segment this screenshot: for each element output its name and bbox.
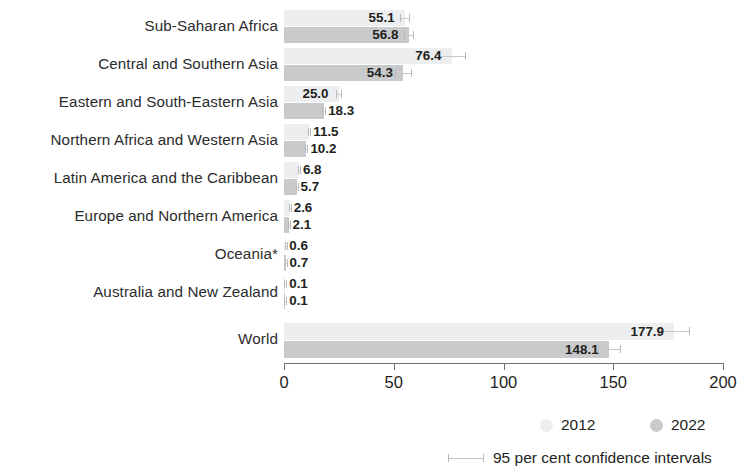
- axis-tick: [394, 363, 395, 370]
- value-label-2022: 54.3: [367, 65, 393, 81]
- value-label-2022: 148.1: [565, 341, 599, 358]
- error-bar-2022: [395, 65, 412, 81]
- category-label: Eastern and South-Eastern Asia: [10, 92, 278, 112]
- error-bar-2022: [284, 293, 287, 309]
- axis-tick-label: 100: [490, 373, 518, 392]
- row-plot-area: 2.62.1: [284, 198, 740, 236]
- error-bar-2012: [284, 276, 287, 292]
- chart-row: Latin America and the Caribbean6.85.7: [0, 160, 740, 198]
- axis-tick-label: 200: [709, 373, 737, 392]
- row-plot-area: 25.018.3: [284, 84, 740, 122]
- value-label-2022: 5.7: [301, 179, 320, 195]
- error-bar-2022: [288, 217, 291, 233]
- value-label-2012: 11.5: [313, 124, 338, 140]
- bar-2012: [284, 124, 309, 140]
- error-bar-2012: [336, 86, 341, 102]
- value-label-2012: 55.1: [369, 10, 395, 26]
- chart-row: World177.9148.1: [0, 318, 740, 362]
- category-label: Oceania*: [10, 244, 278, 264]
- error-bar-2022: [404, 27, 414, 43]
- row-plot-area: 177.9148.1: [284, 318, 740, 362]
- chart-row: Oceania*0.60.7: [0, 236, 740, 274]
- error-bar-2022: [296, 179, 299, 195]
- category-label: Northern Africa and Western Asia: [10, 130, 278, 150]
- bar-chart: Sub-Saharan Africa55.156.8Central and So…: [0, 0, 740, 476]
- legend-item-2022[interactable]: 2022: [650, 416, 705, 434]
- value-label-2022: 10.2: [310, 141, 336, 157]
- chart-row: Europe and Northern America2.62.1: [0, 198, 740, 236]
- error-bar-2012: [438, 48, 467, 64]
- row-plot-area: 6.85.7: [284, 160, 740, 198]
- category-label: World: [10, 329, 278, 349]
- error-bar-2012: [298, 162, 301, 178]
- bar-2012: [284, 162, 299, 178]
- chart-row: Northern Africa and Western Asia11.510.2: [0, 122, 740, 160]
- value-label-2012: 177.9: [630, 323, 664, 340]
- legend-swatch-icon: [540, 419, 553, 432]
- legend-label: 2022: [671, 416, 705, 434]
- axis-tick-label: 0: [279, 373, 288, 392]
- legend-label: 2012: [561, 416, 595, 434]
- value-label-2012: 0.1: [289, 276, 308, 292]
- bar-2022: [284, 179, 297, 195]
- error-bar-2022: [322, 103, 326, 119]
- row-plot-area: 11.510.2: [284, 122, 740, 160]
- category-label: Australia and New Zealand: [10, 282, 278, 302]
- error-bar-2012: [400, 10, 409, 26]
- axis-tick: [613, 363, 614, 370]
- category-label: Latin America and the Caribbean: [10, 168, 278, 188]
- value-label-2012: 25.0: [302, 86, 328, 102]
- row-plot-area: 0.10.1: [284, 274, 740, 312]
- row-plot-area: 76.454.3: [284, 46, 740, 84]
- error-bar-2012: [289, 200, 292, 216]
- error-bar-2022: [305, 141, 308, 157]
- chart-row: Eastern and South-Eastern Asia25.018.3: [0, 84, 740, 122]
- axis-tick: [504, 363, 505, 370]
- chart-row: Central and Southern Asia76.454.3: [0, 46, 740, 84]
- axis-tick: [284, 363, 285, 370]
- axis-tick-label: 50: [385, 373, 403, 392]
- x-axis: 050100150200: [284, 363, 723, 364]
- row-plot-area: 55.156.8: [284, 8, 740, 46]
- value-label-2022: 56.8: [372, 27, 398, 43]
- bar-2022: [284, 103, 324, 119]
- value-label-2022: 2.1: [293, 217, 312, 233]
- value-label-2012: 0.6: [289, 238, 308, 254]
- axis-tick-label: 150: [599, 373, 627, 392]
- chart-row: Australia and New Zealand0.10.1: [0, 274, 740, 312]
- category-label: Sub-Saharan Africa: [10, 16, 278, 36]
- legend-confidence-interval: 95 per cent confidence intervals: [448, 449, 712, 467]
- legend-series: 20122022: [0, 416, 740, 438]
- chart-row: Sub-Saharan Africa55.156.8: [0, 8, 740, 46]
- legend-item-2012[interactable]: 2012: [540, 416, 595, 434]
- legend-swatch-icon: [650, 419, 663, 432]
- axis-tick: [723, 363, 724, 370]
- error-bar-2012: [285, 238, 288, 254]
- category-label: Central and Southern Asia: [10, 54, 278, 74]
- value-label-2022: 18.3: [328, 103, 354, 119]
- row-plot-area: 0.60.7: [284, 236, 740, 274]
- error-bar-2022: [598, 341, 621, 358]
- error-bar-2022: [285, 255, 288, 271]
- value-label-2012: 6.8: [303, 162, 322, 178]
- value-label-2012: 76.4: [415, 48, 441, 64]
- category-label: Europe and Northern America: [10, 206, 278, 226]
- value-label-2012: 2.6: [294, 200, 313, 216]
- bar-2022: [284, 141, 306, 157]
- value-label-2022: 0.7: [290, 255, 309, 271]
- confidence-interval-icon: [448, 453, 484, 463]
- error-bar-2012: [308, 124, 311, 140]
- bar-2012: [284, 323, 674, 340]
- legend-ci-label: 95 per cent confidence intervals: [493, 449, 712, 467]
- bar-2022: [284, 341, 609, 358]
- value-label-2022: 0.1: [289, 293, 308, 309]
